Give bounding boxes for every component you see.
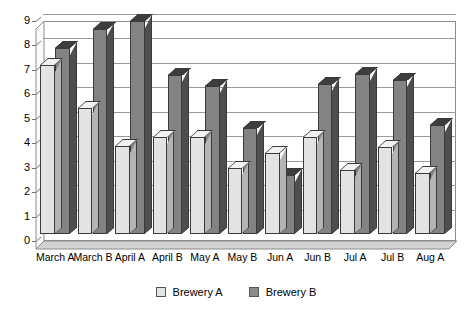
x-tick-label: Aug A [411,252,449,263]
x-tick-label: May B [224,252,262,263]
y-tick-label: 8 [4,39,30,50]
bar-brewery-a-may-b [228,168,243,234]
x-tick-label: March A [36,252,74,263]
bar-brewery-a-march-a [40,65,55,234]
bar-side-face [205,131,212,234]
y-tick-label: 4 [4,137,30,148]
legend-item-brewery-a: Brewery A [156,286,223,298]
bar-side-face [220,80,227,234]
y-tick-label: 5 [4,113,30,124]
bar-side-face [70,42,77,234]
x-tick-label: Jul B [374,252,412,263]
bar-side-face [392,141,399,234]
x-tick-label: April B [149,252,187,263]
bar-front-face [265,153,280,234]
x-axis: March AMarch BApril AApril BMay AMay BJu… [36,252,456,268]
y-tick-label: 7 [4,64,30,75]
bar-side-face [332,78,339,234]
bar-front-face [190,137,205,234]
legend-label: Brewery A [173,286,223,298]
bar-brewery-a-april-b [153,137,168,234]
legend: Brewery A Brewery B [0,286,472,298]
x-tick-label: March B [74,252,112,263]
bar-brewery-a-march-b [78,108,93,234]
y-tick-label: 9 [4,15,30,26]
bar-side-face [107,23,114,234]
bar-side-face [242,162,249,234]
bar-brewery-a-jul-a [340,170,355,234]
legend-label: Brewery B [266,286,317,298]
bar-front-face [228,168,243,234]
bar-side-face [280,147,287,234]
y-tick-label: 0 [4,235,30,246]
bar-side-face [167,131,174,234]
bar-side-face [55,59,62,234]
y-tick-label: 1 [4,211,30,222]
y-tick-label: 6 [4,88,30,99]
gridline [43,14,456,15]
bar-side-face [370,68,377,234]
bar-front-face [115,146,130,234]
plot-floor [36,241,457,249]
bar-brewery-a-may-a [190,137,205,234]
bar-brewery-a-aug-a [415,173,430,234]
light-swatch-icon [156,287,166,297]
bar-brewery-a-jun-b [303,137,318,234]
plot-area [36,21,456,248]
y-tick-label: 2 [4,186,30,197]
bar-side-face [407,74,414,234]
y-tick-label: 3 [4,162,30,173]
bar-front-face [303,137,318,234]
bar-side-face [92,102,99,234]
legend-item-brewery-b: Brewery B [249,286,317,298]
bar-side-face [257,122,264,234]
bar-brewery-a-april-a [115,146,130,234]
x-tick-label: April A [111,252,149,263]
bar-front-face [415,173,430,234]
bar-front-face [340,170,355,234]
bar-front-face [40,65,55,234]
bar-side-face [130,140,137,234]
x-tick-label: May A [186,252,224,263]
bar-side-face [182,69,189,234]
bar-brewery-a-jul-b [378,147,393,234]
bar-front-face [153,137,168,234]
bar-front-face [78,108,93,234]
x-tick-label: Jun B [299,252,337,263]
bar-side-face [145,15,152,234]
x-tick-label: Jul A [336,252,374,263]
dark-swatch-icon [249,287,259,297]
bar-brewery-a-jun-a [265,153,280,234]
x-tick-label: Jun A [261,252,299,263]
bar-chart: 0123456789 March AMarch BApril AApril BM… [0,0,472,316]
bar-side-face [445,119,452,234]
bar-front-face [378,147,393,234]
bar-side-face [317,131,324,234]
